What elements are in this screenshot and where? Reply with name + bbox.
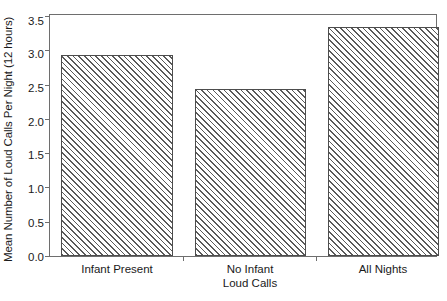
x-tick-label-all-nights: All Nights [316,263,447,277]
y-tick-label-3: 1.5 [16,150,44,161]
y-tick-label-1: 0.5 [16,218,44,229]
y-tick-mark-0 [45,256,50,257]
y-axis-title: Mean Number of Loud Calls Per Night (12 … [2,17,15,262]
y-tick-mark-3 [45,153,50,154]
y-tick-mark-1 [45,222,50,223]
y-tick-label-6: 3.0 [16,49,44,60]
y-tick-label-4: 2.0 [16,117,44,128]
x-tick-label-no-infant-loud-calls: No Infant Loud Calls [183,263,317,290]
y-tick-label-5: 2.5 [16,83,44,94]
x-tick-mark-0 [183,256,184,261]
y-axis-tick-labels: 0.0 0.5 1.0 1.5 2.0 2.5 3.0 3.5 [16,0,44,301]
bar-chart: Mean Number of Loud Calls Per Night (12 … [0,0,447,301]
y-tick-label-7: 3.5 [16,16,44,27]
bar-all-nights [328,27,439,256]
plot-area [49,14,437,257]
y-tick-mark-5 [45,85,50,86]
x-tick-label-infant-present: Infant Present [50,263,184,277]
bar-infant-present [61,55,173,256]
x-tick-mark-1 [316,256,317,261]
y-tick-label-0: 0.0 [16,252,44,263]
y-tick-mark-7 [45,16,50,17]
y-tick-mark-4 [45,119,50,120]
y-tick-mark-2 [45,187,50,188]
y-tick-label-2: 1.0 [16,184,44,195]
bar-no-infant-loud-calls [195,89,306,256]
y-tick-mark-6 [45,50,50,51]
